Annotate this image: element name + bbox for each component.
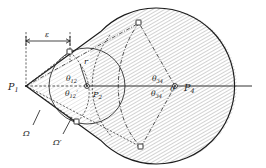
label-omega-prime: Ω′ <box>52 137 62 147</box>
hatch-fill-group <box>0 0 266 168</box>
marker-lower-left <box>74 119 79 124</box>
label-p1: P1 <box>7 81 19 94</box>
marker-upper-right <box>136 20 141 25</box>
point-p1 <box>25 85 27 87</box>
marker-upper-left <box>67 49 72 54</box>
label-epsilon: ε <box>45 30 49 39</box>
geometry-diagram: P1 P2 P4 0 r ε Ω Ω′ θ12 θ12′ θ34 <box>0 0 266 168</box>
label-omega: Ω <box>22 128 30 138</box>
figure-root: P1 P2 P4 0 r ε Ω Ω′ θ12 θ12′ θ34 <box>0 0 266 168</box>
marker-lower-right <box>138 144 143 149</box>
label-origin: 0 <box>170 83 175 93</box>
